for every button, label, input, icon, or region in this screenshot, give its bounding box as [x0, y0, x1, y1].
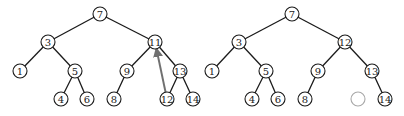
tree-node-5: 5	[259, 64, 273, 78]
node-label: 7	[97, 9, 103, 20]
edge-7-11	[100, 14, 155, 42]
node-label: 13	[366, 66, 379, 77]
tree-node-14: 14	[378, 92, 392, 106]
tree-node-12: 12	[160, 92, 174, 106]
node-label: 7	[289, 9, 295, 20]
tree-node-11: 11	[148, 35, 162, 49]
tree-node-1: 1	[13, 64, 27, 78]
node-label: 11	[149, 37, 162, 48]
edge-7-3	[48, 14, 100, 42]
tree-node-8: 8	[107, 92, 121, 106]
node-label: 9	[124, 66, 130, 77]
empty-node	[351, 92, 365, 106]
tree-node-7: 7	[285, 7, 299, 21]
bst-deletion-diagram: 731115913468121473121591346814	[0, 0, 404, 116]
node-label: 5	[72, 66, 78, 77]
tree-node-3: 3	[41, 35, 55, 49]
tree-node-9: 9	[311, 64, 325, 78]
tree-node-9: 9	[120, 64, 134, 78]
node-label: 14	[379, 94, 392, 105]
node-label: 13	[174, 66, 187, 77]
tree-node-7: 7	[93, 7, 107, 21]
node-label: 6	[275, 94, 281, 105]
tree-node-6: 6	[80, 92, 94, 106]
tree-node-13: 13	[365, 64, 379, 78]
tree-edges	[20, 14, 385, 99]
node-label: 8	[302, 94, 308, 105]
edge-7-3	[239, 14, 292, 42]
node-label: 12	[161, 94, 174, 105]
tree-node-13: 13	[173, 64, 187, 78]
node-circle	[351, 92, 365, 106]
node-label: 14	[187, 94, 200, 105]
node-label: 3	[45, 37, 51, 48]
successor-move-arrow	[156, 49, 165, 92]
node-label: 4	[58, 94, 64, 105]
node-label: 4	[249, 94, 255, 105]
node-label: 8	[111, 94, 117, 105]
node-label: 1	[17, 66, 23, 77]
move-arrows	[156, 49, 165, 92]
node-label: 3	[236, 37, 242, 48]
node-label: 1	[209, 66, 215, 77]
node-label: 12	[339, 37, 352, 48]
tree-node-3: 3	[232, 35, 246, 49]
tree-node-1: 1	[205, 64, 219, 78]
tree-node-14: 14	[186, 92, 200, 106]
node-label: 6	[84, 94, 90, 105]
edge-7-12	[292, 14, 345, 42]
tree-node-8: 8	[298, 92, 312, 106]
tree-node-6: 6	[271, 92, 285, 106]
node-label: 5	[263, 66, 269, 77]
tree-node-12: 12	[338, 35, 352, 49]
tree-node-4: 4	[245, 92, 259, 106]
tree-nodes: 731115913468121473121591346814	[13, 7, 392, 106]
node-label: 9	[315, 66, 321, 77]
tree-node-4: 4	[54, 92, 68, 106]
diagram-svg: 731115913468121473121591346814	[0, 0, 404, 116]
tree-node-5: 5	[68, 64, 82, 78]
